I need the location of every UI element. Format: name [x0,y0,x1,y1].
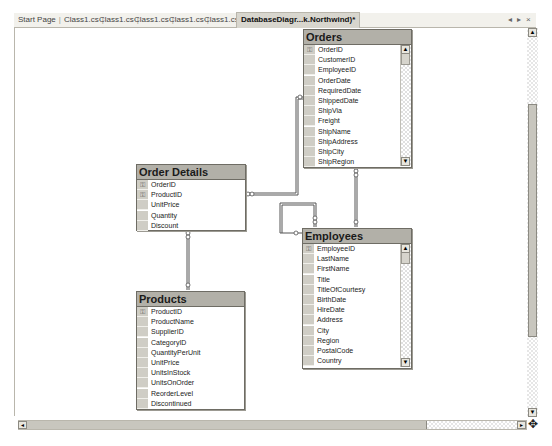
row-selector[interactable] [304,55,315,65]
table-products[interactable]: Products ⚿ProductID ProductName Supplier… [136,291,245,410]
table-title[interactable]: Employees [303,229,411,244]
column-row[interactable]: ShipVia [304,106,411,116]
table-orders[interactable]: Orders ⚿OrderID CustomerID EmployeeID Or… [303,29,412,168]
column-list: ⚿OrderID CustomerID EmployeeID OrderDate… [304,45,411,167]
row-selector[interactable] [137,368,148,378]
column-row[interactable]: ⚿OrderID [137,180,245,190]
column-row[interactable]: Discontinued [137,399,244,409]
column-row[interactable]: HireDate [303,305,411,315]
column-row[interactable]: BirthDate [303,295,411,305]
column-row[interactable]: QuantityPerUnit [137,348,244,358]
column-row[interactable]: UnitsInStock [137,368,244,378]
column-row[interactable]: PostalCode [303,346,411,356]
column-row[interactable]: ShipRegion [304,157,411,167]
row-selector[interactable] [303,336,314,346]
table-scroll-thumb[interactable] [401,53,410,65]
row-selector[interactable] [304,76,315,86]
column-row[interactable]: RequiredDate [304,86,411,96]
column-row[interactable]: Title [303,275,411,285]
table-title[interactable]: Orders [304,30,411,45]
column-row[interactable]: Address [303,315,411,325]
column-row[interactable]: ⚿OrderID [304,45,411,55]
row-selector[interactable] [304,96,315,106]
row-selector[interactable] [303,295,314,305]
row-selector[interactable] [137,358,148,368]
row-selector[interactable] [303,326,314,336]
column-row[interactable]: Freight [304,116,411,126]
row-selector[interactable] [304,127,315,137]
column-row[interactable]: TitleOfCourtesy [303,285,411,295]
row-selector[interactable] [304,147,315,157]
column-row[interactable]: CategoryID [137,338,244,348]
column-row[interactable]: FirstName [303,264,411,274]
row-selector[interactable] [137,338,148,348]
row-selector[interactable] [303,264,314,274]
row-selector[interactable] [303,356,314,366]
row-selector[interactable] [304,116,315,126]
row-selector[interactable] [304,65,315,75]
vertical-scroll-thumb[interactable] [528,104,537,337]
row-selector[interactable] [304,106,315,116]
row-selector[interactable] [137,327,148,337]
table-employees[interactable]: Employees ⚿EmployeeID LastName FirstName… [302,228,412,369]
column-row[interactable]: SupplierID [137,327,244,337]
row-selector[interactable] [137,399,148,409]
column-row[interactable]: CustomerID [304,55,411,65]
row-selector[interactable] [304,157,315,167]
scroll-up-icon[interactable]: ▲ [401,244,410,253]
column-row[interactable]: ReorderLevel [137,389,244,399]
row-selector[interactable] [303,305,314,315]
column-row[interactable]: Discount [137,221,245,231]
column-row[interactable]: OrderDate [304,76,411,86]
scroll-down-icon[interactable]: ▼ [401,358,410,367]
column-row[interactable]: ProductName [137,317,244,327]
row-selector[interactable] [304,137,315,147]
scroll-left-icon[interactable]: ◂ [18,421,27,429]
column-row[interactable]: UnitPrice [137,358,244,368]
column-row[interactable]: Quantity [137,211,245,221]
scroll-up-icon[interactable]: ▲ [401,45,410,54]
column-row[interactable]: ⚿EmployeeID [303,244,411,254]
column-row[interactable]: EmployeeID [304,65,411,75]
scroll-down-icon[interactable]: ▼ [528,408,537,417]
scroll-down-icon[interactable]: ▼ [401,157,410,166]
row-selector[interactable] [303,275,314,285]
column-row[interactable]: ⚿ProductID [137,190,245,200]
primary-key-icon: ⚿ [304,45,315,55]
row-selector[interactable] [137,221,148,231]
row-selector[interactable] [137,378,148,388]
row-selector[interactable] [137,348,148,358]
row-selector[interactable] [137,200,148,210]
row-selector[interactable] [303,346,314,356]
table-order-details[interactable]: Order Details ⚿OrderID ⚿ProductID UnitPr… [136,164,246,231]
row-selector[interactable] [304,86,315,96]
table-scrollbar[interactable]: ▲ ▼ [400,45,411,166]
column-row[interactable]: LastName [303,254,411,264]
row-selector[interactable] [137,389,148,399]
column-row[interactable]: Country [303,356,411,366]
column-row[interactable]: ShipName [304,127,411,137]
pan-move-icon[interactable]: ✥ [527,418,539,430]
horizontal-scroll-thumb[interactable] [26,421,427,429]
column-row[interactable]: ShippedDate [304,96,411,106]
row-selector[interactable] [303,315,314,325]
column-row[interactable]: ⚿ProductID [137,307,244,317]
row-selector[interactable] [137,211,148,221]
table-title[interactable]: Order Details [137,165,245,180]
row-selector[interactable] [137,317,148,327]
column-row[interactable]: UnitPrice [137,200,245,210]
column-row[interactable]: ShipCity [304,147,411,157]
column-row[interactable]: City [303,326,411,336]
row-selector[interactable] [303,254,314,264]
primary-key-icon: ⚿ [137,307,148,317]
column-list: ⚿ProductID ProductName SupplierID Catego… [137,307,244,409]
table-scrollbar[interactable]: ▲ ▼ [400,244,411,367]
column-row[interactable]: UnitsOnOrder [137,378,244,388]
column-row[interactable]: Region [303,336,411,346]
table-title[interactable]: Products [137,292,244,307]
column-row[interactable]: ShipAddress [304,137,411,147]
table-scroll-thumb[interactable] [401,252,410,264]
scroll-up-icon[interactable]: ▲ [528,28,537,37]
row-selector[interactable] [303,285,314,295]
scroll-right-icon[interactable]: ▸ [517,421,526,429]
